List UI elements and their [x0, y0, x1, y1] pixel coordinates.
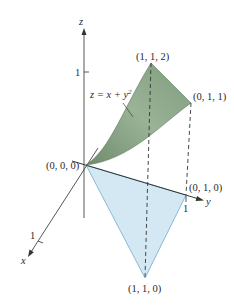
z-tick-label: 1: [75, 67, 80, 78]
point-label-010: (0, 1, 0): [189, 182, 223, 194]
surface-diagram: z 1 x 1 y 1 z = x + y2 (0, 0, 0) (1, 1, …: [0, 0, 234, 308]
point-label-origin: (0, 0, 0): [46, 160, 80, 172]
x-tick-label: 1: [30, 230, 35, 241]
z-axis-label: z: [78, 16, 83, 27]
x-axis-arrow-icon: [28, 250, 34, 258]
point-label-011: (0, 1, 1): [193, 91, 227, 103]
point-label-110: (1, 1, 0): [128, 283, 162, 295]
surface-equation-exponent: 2: [128, 88, 132, 96]
point-label-112: (1, 1, 2): [136, 51, 170, 63]
x-axis-label: x: [20, 255, 26, 266]
base-region-triangle: [86, 165, 186, 278]
surface-equation-main: z = x + y: [89, 89, 128, 100]
y-axis-arrow-icon: [196, 196, 204, 201]
surface-equation-label: z = x + y2: [89, 88, 132, 100]
z-axis-arrow-icon: [82, 28, 87, 35]
y-tick-label: 1: [183, 203, 188, 214]
y-axis-label: y: [205, 196, 211, 207]
surface-patch: [86, 63, 191, 165]
x-tick: [38, 241, 43, 243]
